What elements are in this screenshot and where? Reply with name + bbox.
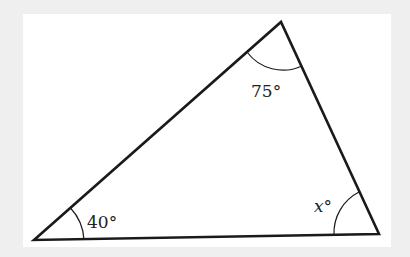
angle-label-75: 75° bbox=[251, 81, 281, 101]
angle-arc-x bbox=[334, 192, 359, 235]
angle-label-x: x° bbox=[314, 196, 332, 216]
angle-arc-40 bbox=[71, 208, 85, 240]
angle-label-40: 40° bbox=[87, 212, 117, 232]
triangle-diagram: 40° 75° x° bbox=[0, 0, 410, 257]
angle-arc-75 bbox=[247, 52, 302, 70]
